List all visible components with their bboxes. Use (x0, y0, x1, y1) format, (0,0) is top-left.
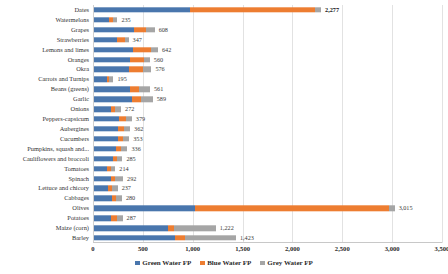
bar-segment-grey-water-fp[interactable] (185, 235, 236, 240)
bar-segment-green-water-fp[interactable] (94, 47, 133, 52)
bar-segment-green-water-fp[interactable] (94, 87, 130, 92)
bar-segment-green-water-fp[interactable] (94, 146, 116, 151)
stacked-bar[interactable] (94, 126, 130, 131)
bar-row[interactable]: Carrots and Turnips195 (93, 74, 442, 84)
stacked-bar[interactable] (94, 146, 127, 151)
stacked-bar[interactable] (94, 87, 150, 92)
bar-segment-green-water-fp[interactable] (94, 77, 107, 82)
bar-segment-green-water-fp[interactable] (94, 17, 109, 22)
bar-segment-grey-water-fp[interactable] (117, 216, 123, 221)
legend-item[interactable]: Green Water FP (135, 259, 191, 267)
stacked-bar[interactable] (94, 196, 122, 201)
stacked-bar[interactable] (94, 186, 118, 191)
bar-row[interactable]: Cauliflowers and broccoli285 (93, 154, 442, 164)
stacked-bar[interactable] (94, 97, 153, 102)
bar-segment-grey-water-fp[interactable] (115, 176, 123, 181)
bar-row[interactable]: Dates2,277 (93, 5, 442, 15)
bar-row[interactable]: Grapes608 (93, 25, 442, 35)
bar-segment-grey-water-fp[interactable] (146, 27, 154, 32)
stacked-bar[interactable] (94, 37, 129, 42)
legend-item[interactable]: Grey Water FP (260, 259, 313, 267)
stacked-bar[interactable] (94, 106, 121, 111)
bar-segment-blue-water-fp[interactable] (195, 206, 389, 211)
bar-segment-blue-water-fp[interactable] (130, 87, 138, 92)
bar-segment-grey-water-fp[interactable] (111, 166, 115, 171)
bar-segment-blue-water-fp[interactable] (133, 47, 151, 52)
bar-segment-blue-water-fp[interactable] (132, 97, 141, 102)
bar-row[interactable]: Maize (corn)1,222 (93, 223, 442, 233)
stacked-bar[interactable] (94, 235, 236, 240)
stacked-bar[interactable] (94, 116, 132, 121)
bar-segment-grey-water-fp[interactable] (121, 146, 127, 151)
bar-segment-green-water-fp[interactable] (94, 156, 113, 161)
stacked-bar[interactable] (94, 57, 150, 62)
bar-segment-grey-water-fp[interactable] (117, 156, 122, 161)
bar-row[interactable]: Watermelons235 (93, 15, 442, 25)
bar-segment-blue-water-fp[interactable] (134, 27, 146, 32)
stacked-bar[interactable] (94, 206, 395, 211)
bar-row[interactable]: Pumpkins, squash and...336 (93, 144, 442, 154)
stacked-bar[interactable] (94, 47, 158, 52)
bar-segment-green-water-fp[interactable] (94, 235, 175, 240)
bar-row[interactable]: Tomatoes214 (93, 164, 442, 174)
bar-segment-grey-water-fp[interactable] (151, 47, 158, 52)
stacked-bar[interactable] (94, 77, 113, 82)
bar-row[interactable]: Lettuce and chicory237 (93, 184, 442, 194)
bar-segment-green-water-fp[interactable] (94, 126, 118, 131)
bar-segment-green-water-fp[interactable] (94, 166, 107, 171)
bar-segment-green-water-fp[interactable] (94, 206, 195, 211)
bar-segment-grey-water-fp[interactable] (109, 77, 113, 82)
bar-segment-green-water-fp[interactable] (94, 116, 119, 121)
bar-segment-green-water-fp[interactable] (94, 216, 111, 221)
bar-segment-grey-water-fp[interactable] (126, 116, 132, 121)
bar-segment-blue-water-fp[interactable] (117, 37, 124, 42)
bar-row[interactable]: Potatoes287 (93, 213, 442, 223)
bar-segment-grey-water-fp[interactable] (113, 17, 117, 22)
bar-row[interactable]: Lemons and limes642 (93, 45, 442, 55)
bar-segment-green-water-fp[interactable] (94, 196, 112, 201)
bar-segment-green-water-fp[interactable] (94, 106, 111, 111)
bar-segment-grey-water-fp[interactable] (139, 87, 150, 92)
stacked-bar[interactable] (94, 7, 321, 12)
bar-segment-blue-water-fp[interactable] (129, 67, 142, 72)
stacked-bar[interactable] (94, 176, 123, 181)
bar-row[interactable]: Olives3,015 (93, 203, 442, 213)
bar-segment-grey-water-fp[interactable] (115, 106, 121, 111)
bar-segment-green-water-fp[interactable] (94, 225, 168, 230)
stacked-bar[interactable] (94, 67, 151, 72)
bar-row[interactable]: Oranges560 (93, 55, 442, 65)
bar-row[interactable]: Strawberries347 (93, 35, 442, 45)
bar-segment-grey-water-fp[interactable] (123, 136, 129, 141)
stacked-bar[interactable] (94, 136, 129, 141)
bar-segment-green-water-fp[interactable] (94, 67, 129, 72)
stacked-bar[interactable] (94, 225, 216, 230)
bar-segment-green-water-fp[interactable] (94, 7, 190, 12)
bar-segment-green-water-fp[interactable] (94, 186, 108, 191)
bar-row[interactable]: Beans (greens)561 (93, 84, 442, 94)
bar-row[interactable]: Cabbages280 (93, 193, 442, 203)
stacked-bar[interactable] (94, 166, 115, 171)
stacked-bar[interactable] (94, 17, 117, 22)
bar-row[interactable]: Spinach292 (93, 174, 442, 184)
bar-segment-grey-water-fp[interactable] (315, 7, 321, 12)
bar-segment-grey-water-fp[interactable] (174, 225, 216, 230)
bar-segment-grey-water-fp[interactable] (141, 97, 153, 102)
bar-segment-green-water-fp[interactable] (94, 57, 130, 62)
bar-row[interactable]: Barley1,423 (93, 233, 442, 243)
bar-segment-green-water-fp[interactable] (94, 27, 134, 32)
bar-segment-green-water-fp[interactable] (94, 176, 111, 181)
bar-row[interactable]: Onions272 (93, 104, 442, 114)
bar-segment-grey-water-fp[interactable] (143, 67, 152, 72)
bar-segment-blue-water-fp[interactable] (130, 57, 144, 62)
bar-segment-grey-water-fp[interactable] (124, 126, 130, 131)
bar-segment-green-water-fp[interactable] (94, 37, 117, 42)
bar-segment-blue-water-fp[interactable] (175, 235, 185, 240)
bar-segment-green-water-fp[interactable] (94, 136, 118, 141)
bar-segment-green-water-fp[interactable] (94, 97, 132, 102)
bar-row[interactable]: Peppers-capsicum379 (93, 114, 442, 124)
bar-row[interactable]: Cucumbers353 (93, 134, 442, 144)
bar-segment-grey-water-fp[interactable] (116, 196, 121, 201)
bar-segment-blue-water-fp[interactable] (190, 7, 315, 12)
bar-segment-grey-water-fp[interactable] (389, 206, 395, 211)
bar-segment-grey-water-fp[interactable] (112, 186, 117, 191)
